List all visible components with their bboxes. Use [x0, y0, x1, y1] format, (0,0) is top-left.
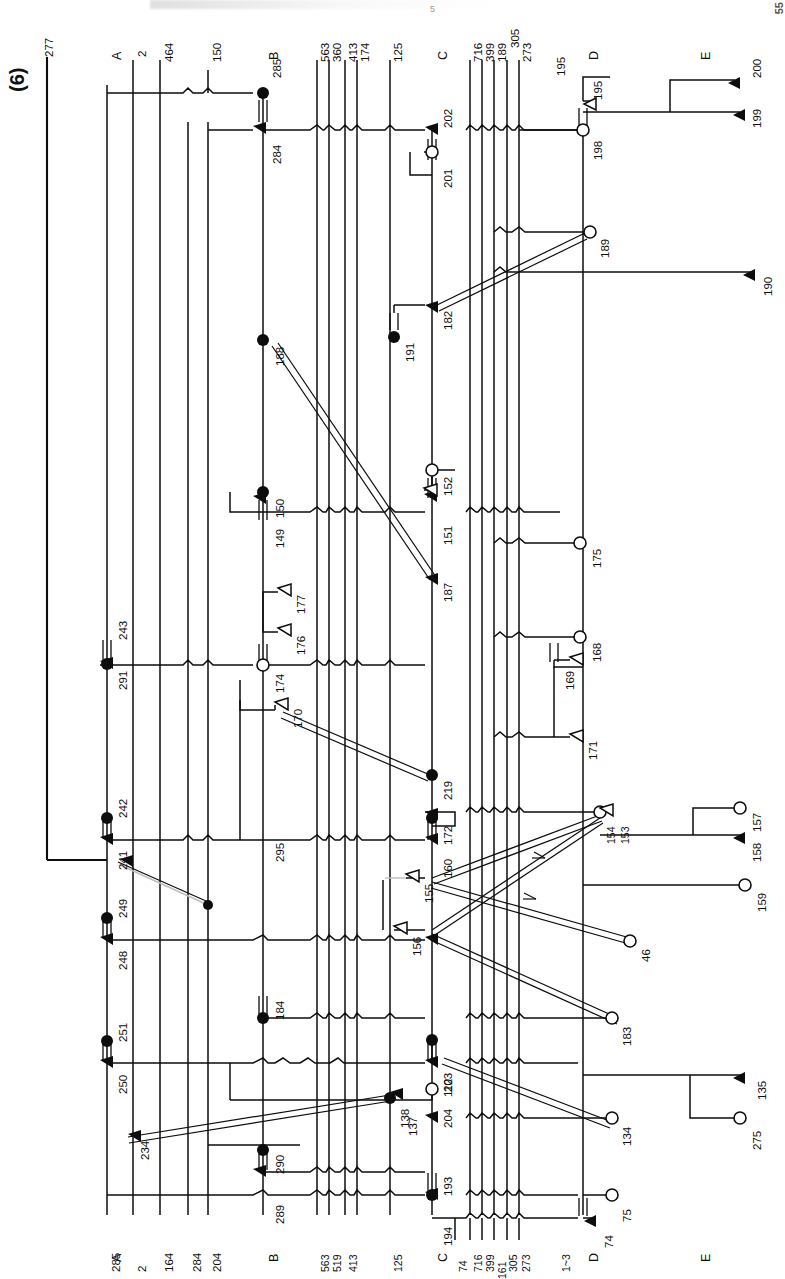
bus-label-204-bottom: 204 — [212, 1253, 224, 1272]
terminal-label-177: 177 — [296, 595, 308, 614]
bus-label-125: 125 — [393, 43, 405, 62]
bus-label-174: 174 — [360, 43, 372, 62]
terminal-label-171: 171 — [588, 741, 600, 760]
terminal-label-188: 188 — [275, 347, 287, 366]
bus-label-164-bottom: 164 — [164, 1253, 176, 1272]
bus-label-150: 150 — [212, 43, 224, 62]
terminal-label-251: 251 — [118, 1023, 130, 1042]
terminal-label-295: 295 — [275, 843, 287, 862]
open-triangle-node-group — [275, 98, 613, 934]
terminal-label-168: 168 — [592, 643, 604, 662]
bus-label-399-bottom: 399 — [485, 1254, 496, 1272]
bus-label-1-3-bottom: 1~3 — [561, 1254, 572, 1272]
terminal-label-150n: 150 — [275, 499, 287, 518]
terminal-label-154: 154 — [606, 826, 617, 844]
terminal-label-182: 182 — [443, 311, 455, 330]
terminal-label-184: 184 — [275, 1001, 287, 1020]
terminal-label-204: 204 — [443, 1109, 455, 1128]
terminal-label-176: 176 — [296, 636, 308, 655]
terminal-label-289: 289 — [275, 1205, 287, 1224]
terminal-label-284: 284 — [272, 145, 284, 164]
terminal-label-243: 243 — [118, 621, 130, 640]
terminal-label-202: 202 — [443, 109, 455, 128]
terminal-label-194: 194 — [443, 1227, 455, 1246]
terminal-label-158: 158 — [752, 843, 764, 862]
terminal-label-285: 285 — [272, 59, 284, 78]
bus-label-161-bottom: 161 — [497, 1261, 508, 1279]
section-letter-e-bottom: E — [700, 1254, 713, 1262]
terminal-label-291: 291 — [118, 671, 130, 690]
terminal-label-183: 183 — [622, 1027, 634, 1046]
terminal-label-241: 241 — [118, 851, 130, 870]
terminal-label-175: 175 — [592, 549, 604, 568]
terminal-label-46: 46 — [641, 949, 653, 962]
terminal-label-193: 193 — [443, 1177, 455, 1196]
terminal-label-153: 153 — [620, 826, 631, 844]
terminal-label-170: 170 — [293, 709, 305, 728]
bus-label-195-top: 195 — [556, 57, 568, 76]
bus-label-284-bottom: 284 — [192, 1253, 204, 1272]
terminal-label-195: 195 — [593, 81, 605, 100]
terminal-label-190: 190 — [763, 277, 775, 296]
terminal-label-199: 199 — [752, 109, 764, 128]
bus-label-305-bottom: 305 — [508, 1254, 519, 1272]
terminal-label-248: 248 — [118, 951, 130, 970]
bus-label-273: 273 — [522, 43, 534, 62]
terminal-label-159: 159 — [757, 893, 769, 912]
terminal-label-112: 112 — [443, 1079, 455, 1097]
bus-label-563-bottom: 563 — [320, 1254, 331, 1272]
bus-label-716: 716 — [473, 43, 485, 62]
terminal-label-275: 275 — [752, 1131, 764, 1150]
terminal-label-187: 187 — [443, 583, 455, 602]
section-letter-a-top: A — [111, 52, 124, 60]
terminal-label-160: 160 — [443, 859, 455, 878]
bus-label-74-bottom: 74 — [458, 1260, 469, 1272]
terminal-label-149: 149 — [275, 529, 287, 548]
terminal-label-191: 191 — [405, 343, 417, 362]
bus-label-413-bottom: 413 — [348, 1254, 359, 1272]
bus-label-464: 464 — [164, 43, 176, 62]
terminal-label-152: 152 — [443, 477, 455, 496]
bus-label-563: 563 — [320, 43, 332, 62]
terminal-label-250: 250 — [118, 1075, 130, 1094]
terminal-label-157: 157 — [752, 813, 764, 832]
terminal-label-219: 219 — [443, 781, 455, 800]
section-letter-b-bottom: B — [268, 1254, 281, 1262]
terminal-label-242: 242 — [118, 799, 130, 818]
terminal-label-172: 172 — [443, 826, 455, 845]
terminal-label-169: 169 — [565, 671, 577, 690]
bus-label-189-top: 189 — [497, 43, 509, 62]
terminal-label-200: 200 — [752, 59, 764, 78]
terminal-label-75: 75 — [622, 1209, 634, 1222]
terminal-label-174n: 174 — [275, 674, 287, 693]
section-letter-c-bottom: C — [437, 1253, 450, 1262]
bus-label-2-bottom: 2 — [137, 1266, 149, 1272]
terminal-label-138: 138 — [400, 1109, 412, 1128]
bus-label-716-bottom: 716 — [473, 1254, 484, 1272]
terminal-label-189: 189 — [600, 239, 612, 258]
terminal-label-74: 74 — [604, 1235, 616, 1248]
section-letter-e-top: E — [700, 52, 713, 60]
bus-label-305: 305 — [510, 29, 522, 48]
section-letter-c-top: C — [437, 51, 450, 60]
terminal-label-198: 198 — [593, 141, 605, 160]
terminal-label-155: 155 — [424, 884, 436, 903]
terminal-label-201: 201 — [443, 169, 455, 188]
bus-label-285-bottom: 285 — [111, 1253, 123, 1272]
terminal-label-134: 134 — [622, 1127, 634, 1146]
terminal-label-234: 234 — [140, 1141, 152, 1160]
section-letter-d-top: D — [588, 51, 601, 60]
terminal-label-156: 156 — [412, 937, 424, 956]
bus-label-399: 399 — [485, 43, 497, 62]
terminal-label-249: 249 — [118, 899, 130, 918]
section-letter-d-bottom: D — [588, 1253, 601, 1262]
solid-node-group — [101, 87, 438, 1201]
terminal-label-151: 151 — [443, 526, 455, 545]
bus-label-2: 2 — [137, 51, 149, 57]
bus-label-125-bottom: 125 — [393, 1254, 404, 1272]
bus-label-277: 277 — [44, 38, 56, 57]
bus-label-273-bottom: 273 — [521, 1254, 532, 1272]
terminal-label-135: 135 — [757, 1081, 769, 1100]
terminal-label-290: 290 — [275, 1155, 287, 1174]
